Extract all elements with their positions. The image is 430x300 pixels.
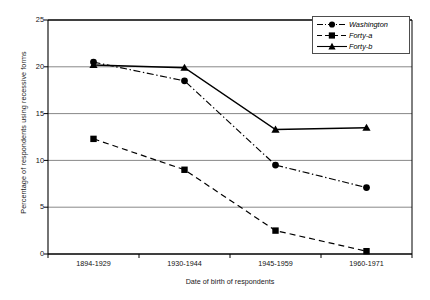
x-tick-label: 1930-1944 — [139, 259, 230, 268]
legend-label: Forty-a — [349, 31, 372, 40]
legend-item-forty-a: Forty-a — [313, 30, 409, 41]
legend-item-washington: Washington — [313, 19, 409, 30]
legend-swatch-solid-triangle-icon — [316, 41, 348, 52]
chart-legend: Washington Forty-a Forty-b — [312, 16, 410, 54]
data-point-forty-a — [181, 167, 187, 173]
data-point-forty-a — [363, 248, 369, 254]
x-tick-label: 1945-1959 — [230, 259, 321, 268]
data-point-forty-a — [272, 227, 278, 233]
x-tick-label: 1960-1971 — [321, 259, 412, 268]
chart-container: Percentage of respondents using recessiv… — [0, 0, 430, 300]
legend-label: Washington — [349, 20, 388, 29]
legend-item-forty-b: Forty-b — [313, 41, 409, 52]
series-line-forty-b — [94, 65, 367, 130]
x-axis-title: Date of birth of respondents — [48, 277, 412, 286]
series-line-forty-a — [94, 139, 367, 251]
x-tick-label: 1894-1929 — [48, 259, 139, 268]
data-point-washington — [272, 162, 279, 169]
data-point-washington — [363, 184, 370, 191]
legend-swatch-dashdot-circle-icon — [316, 19, 348, 30]
legend-label: Forty-b — [349, 42, 372, 51]
data-point-forty-a — [90, 136, 96, 142]
legend-swatch-dashed-square-icon — [316, 30, 348, 41]
series-line-washington — [94, 62, 367, 187]
data-point-washington — [181, 77, 188, 84]
